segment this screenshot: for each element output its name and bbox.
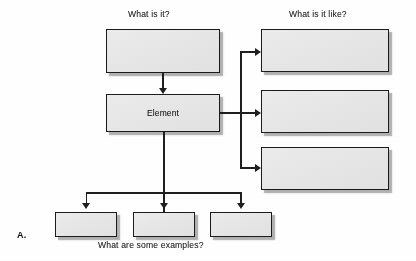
example-box-1[interactable]	[55, 212, 117, 237]
figure-letter-label: A.	[17, 230, 26, 240]
heading-what-is-it-like: What is it like?	[289, 9, 347, 19]
figure-canvas: What is it? What is it like? What are so…	[0, 0, 416, 261]
connector-trunk-to-property-3	[240, 167, 255, 169]
definition-box[interactable]	[106, 29, 220, 73]
examples-distribution-bar	[86, 192, 242, 194]
connector-element-down-trunk	[163, 132, 165, 212]
concept-node-element[interactable]: Element	[106, 94, 220, 132]
right-trunk-vertical	[240, 51, 242, 168]
arrowhead-to-property-1	[255, 48, 261, 56]
arrowhead-to-property-2	[255, 109, 261, 117]
arrowhead-to-property-3	[255, 164, 261, 172]
connector-element-to-right-trunk	[220, 112, 242, 114]
heading-what-is-it: What is it?	[128, 9, 170, 19]
example-box-2[interactable]	[133, 212, 195, 237]
arrowhead-to-example-3	[237, 203, 245, 209]
example-box-3[interactable]	[210, 212, 272, 237]
arrowhead-definition-to-element	[159, 88, 167, 94]
concept-node-label: Element	[147, 109, 179, 118]
arrowhead-to-example-1	[82, 203, 90, 209]
connector-trunk-to-property-1	[240, 51, 255, 53]
property-box-2[interactable]	[261, 90, 389, 133]
arrowhead-to-example-2	[160, 203, 168, 209]
property-box-3[interactable]	[261, 147, 389, 190]
connector-definition-to-element	[162, 73, 164, 89]
heading-what-are-some-examples: What are some examples?	[98, 240, 204, 250]
property-box-1[interactable]	[261, 29, 389, 72]
connector-trunk-to-property-2	[240, 112, 255, 114]
